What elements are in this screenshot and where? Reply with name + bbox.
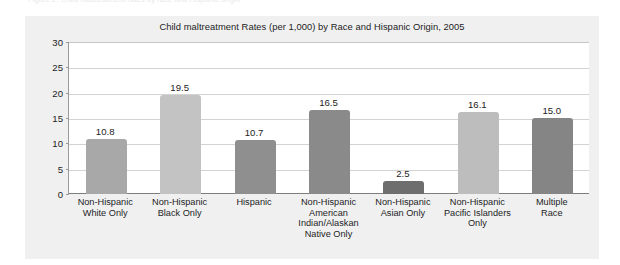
x-axis-category-line: Multiple [515, 197, 589, 208]
y-axis-tick-labels: 051015202530 [25, 42, 63, 194]
x-axis-category-label: Non-HispanicAmericanIndian/AlaskanNative… [291, 197, 365, 239]
bar-value-label: 19.5 [150, 82, 210, 93]
x-axis-category-line: Hispanic [217, 197, 291, 208]
bar[interactable] [532, 118, 573, 194]
x-axis-category-labels: Non-HispanicWhite OnlyNon-HispanicBlack … [68, 197, 589, 255]
x-axis-category-line: Indian/Alaskan [291, 218, 365, 229]
bar[interactable] [458, 112, 499, 194]
bar[interactable] [309, 110, 350, 194]
bar[interactable] [235, 140, 276, 194]
bar-value-label: 16.1 [447, 99, 507, 110]
y-axis-tick-mark [66, 93, 69, 94]
clipped-caption-sliver: Figure 2. Child maltreatment rates by ra… [0, 0, 620, 7]
bar-value-label: 16.5 [299, 97, 359, 108]
y-axis-tick-label: 30 [27, 37, 63, 48]
bar[interactable] [160, 95, 201, 194]
chart-title: Child maltreatment Rates (per 1,000) by … [25, 21, 599, 32]
x-axis-category-label: Hispanic [217, 197, 291, 208]
y-axis-tick-mark [66, 42, 69, 43]
clipped-caption-text: Figure 2. Child maltreatment rates by ra… [28, 0, 240, 4]
y-axis-tick-label: 0 [27, 189, 63, 200]
x-axis-category-label: Non-HispanicBlack Only [142, 197, 216, 218]
x-axis-category-line: White Only [68, 208, 142, 219]
y-axis-tick-label: 15 [27, 113, 63, 124]
y-axis-tick-label: 5 [27, 163, 63, 174]
x-axis-category-line: Race [515, 208, 589, 219]
chart-figure-panel: Child maltreatment Rates (per 1,000) by … [25, 16, 599, 259]
bar[interactable] [86, 139, 127, 194]
y-axis-tick-label: 10 [27, 138, 63, 149]
x-axis-category-line: Pacific Islanders [440, 208, 514, 219]
bar-value-label: 10.8 [75, 126, 135, 137]
x-axis-category-line: Non-Hispanic [142, 197, 216, 208]
y-axis-tick-label: 20 [27, 87, 63, 98]
plot-area [68, 42, 589, 194]
x-axis-category-line: Non-Hispanic [68, 197, 142, 208]
y-axis-tick-mark [66, 169, 69, 170]
x-axis-category-label: Non-HispanicWhite Only [68, 197, 142, 218]
y-axis-tick-label: 25 [27, 62, 63, 73]
x-axis-category-line: Only [440, 218, 514, 229]
x-axis-category-label: MultipleRace [515, 197, 589, 218]
x-axis-category-line: Asian Only [366, 208, 440, 219]
x-axis-category-line: American [291, 208, 365, 219]
x-axis-category-line: Non-Hispanic [366, 197, 440, 208]
bar[interactable] [383, 181, 424, 194]
y-axis-tick-mark [66, 118, 69, 119]
gridline [69, 94, 589, 95]
x-axis-category-label: Non-HispanicPacific IslandersOnly [440, 197, 514, 229]
bar-value-label: 15.0 [522, 105, 582, 116]
x-axis-category-label: Non-HispanicAsian Only [366, 197, 440, 218]
bar-value-label: 10.7 [224, 127, 284, 138]
x-axis-category-line: Non-Hispanic [291, 197, 365, 208]
y-axis-tick-mark [66, 194, 69, 195]
y-axis-tick-mark [66, 67, 69, 68]
x-axis-category-line: Black Only [142, 208, 216, 219]
x-axis-category-line: Native Only [291, 229, 365, 240]
gridline [69, 68, 589, 69]
bar-value-label: 2.5 [373, 168, 433, 179]
x-axis-category-line: Non-Hispanic [440, 197, 514, 208]
y-axis-tick-mark [66, 143, 69, 144]
